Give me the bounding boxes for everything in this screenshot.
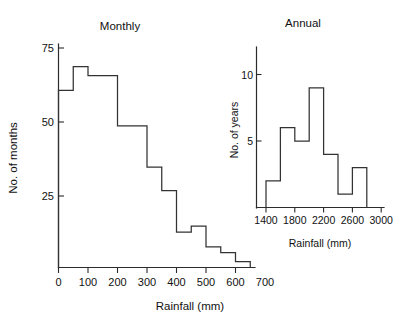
- main-y-tick-label-50: 50: [42, 116, 54, 128]
- main-x-tick-label-0: 0: [55, 276, 61, 288]
- main-panel-title: Monthly: [100, 20, 141, 32]
- main-x-tick-label-300: 300: [138, 276, 156, 288]
- main-y-axis-title: No. of months: [7, 122, 19, 194]
- inset-y-axis-title: No. of years: [228, 102, 240, 159]
- main-y-ticks: 25 50 75: [42, 42, 64, 202]
- main-y-tick-label-25: 25: [42, 190, 54, 202]
- main-x-tick-label-500: 500: [197, 276, 215, 288]
- inset-y-tick-label-5: 5: [247, 135, 253, 147]
- inset-x-tick-label-2200: 2200: [312, 214, 336, 226]
- main-panel: Monthly 25 50 75: [7, 20, 274, 312]
- inset-x-tick-label-2600: 2600: [341, 214, 365, 226]
- inset-x-axis-title: Rainfall (mm): [289, 237, 351, 249]
- chart-svg: Monthly 25 50 75: [0, 0, 394, 326]
- inset-x-tick-label-1400: 1400: [254, 214, 278, 226]
- main-x-tick-label-100: 100: [79, 276, 97, 288]
- inset-panel: Annual 5 10 1400 1800 2200: [228, 17, 393, 249]
- inset-y-ticks: 5 10: [241, 69, 261, 148]
- inset-x-tick-label-1800: 1800: [283, 214, 307, 226]
- inset-x-tick-label-3000: 3000: [370, 214, 394, 226]
- rainfall-histograms-figure: Monthly 25 50 75: [0, 0, 394, 326]
- inset-x-ticks: 1400 1800 2200 2600 3000: [254, 208, 393, 227]
- monthly-histogram-steps: [59, 67, 251, 268]
- main-x-axis-title: Rainfall (mm): [156, 300, 225, 312]
- main-y-tick-label-75: 75: [42, 42, 54, 54]
- main-x-tick-label-700: 700: [256, 276, 274, 288]
- inset-y-tick-label-10: 10: [241, 69, 253, 81]
- annual-histogram-steps: [266, 88, 367, 208]
- inset-panel-title: Annual: [285, 17, 321, 29]
- main-x-ticks: 0 100 200 300 400 500 600 700: [55, 268, 274, 289]
- main-x-tick-label-200: 200: [108, 276, 126, 288]
- main-x-tick-label-400: 400: [167, 276, 185, 288]
- main-x-tick-label-600: 600: [226, 276, 244, 288]
